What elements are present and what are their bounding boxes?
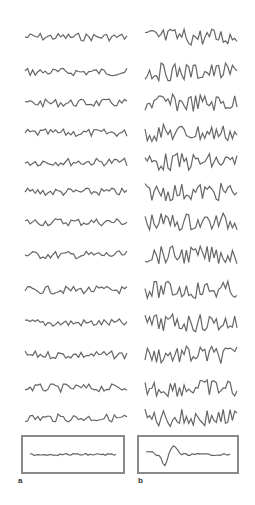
trace-a-12	[25, 384, 127, 392]
trace-b-3	[145, 94, 237, 111]
trace-a-6	[25, 188, 127, 195]
panel-label-b: b	[138, 476, 143, 485]
trace-b-4	[145, 124, 237, 141]
average-trace-a	[30, 454, 116, 456]
trace-a-2	[25, 68, 127, 76]
trace-a-4	[25, 129, 127, 136]
trace-b-12	[145, 380, 237, 397]
trace-b-6	[145, 183, 237, 201]
trace-a-8	[25, 251, 127, 259]
trace-b-10	[145, 314, 237, 332]
trace-b-7	[145, 213, 237, 230]
panel-label-a: a	[18, 476, 22, 485]
trace-b-9	[145, 281, 237, 298]
trace-b-2	[145, 63, 237, 81]
trace-a-1	[25, 33, 127, 41]
trace-b-13	[145, 409, 237, 426]
trace-a-11	[25, 351, 127, 359]
trace-a-10	[25, 319, 127, 326]
trace-b-1	[145, 29, 237, 45]
trace-a-5	[25, 158, 127, 166]
trace-b-8	[145, 246, 237, 264]
waveform-figure	[0, 0, 255, 505]
trace-b-11	[145, 346, 237, 363]
trace-a-9	[25, 286, 127, 294]
trace-a-3	[25, 99, 127, 107]
trace-a-7	[25, 219, 127, 226]
trace-b-5	[145, 153, 237, 170]
average-trace-b	[146, 446, 230, 466]
trace-a-13	[25, 414, 127, 422]
